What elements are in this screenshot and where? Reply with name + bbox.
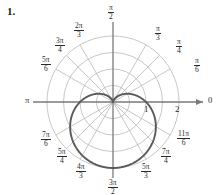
angle-label-7pi-over-6: 7π 6 bbox=[41, 131, 51, 148]
angle-label-5pi-over-6: 5π 6 bbox=[41, 56, 51, 73]
angle-label-5pi-over-3: 5π 3 bbox=[141, 163, 151, 180]
angle-label-5pi-over-3-den: 3 bbox=[141, 172, 151, 180]
angle-label-pi-over-6: π 6 bbox=[194, 57, 200, 74]
radial-tick-1: 1 bbox=[144, 104, 149, 114]
angle-label-4pi-over-3-den: 3 bbox=[76, 172, 86, 180]
angle-label-2pi-over-3: 2π 3 bbox=[74, 22, 84, 39]
angle-label-2pi-over-3-den: 3 bbox=[74, 31, 84, 39]
polar-plot-figure: 1. π 0 1 2 π 2 π 3 π 4 π 6 2π 3 bbox=[0, 0, 221, 194]
angle-label-pi-over-3: π 3 bbox=[155, 25, 161, 42]
angle-label-pi-over-6-den: 6 bbox=[194, 66, 200, 74]
angle-label-pi-over-2-den: 2 bbox=[108, 13, 114, 21]
angle-label-3pi-over-2-den: 2 bbox=[108, 188, 118, 195]
angle-label-11pi-over-6-den: 6 bbox=[177, 139, 190, 147]
angle-label-3pi-over-2: 3π 2 bbox=[108, 179, 118, 194]
angle-label-pi-over-3-den: 3 bbox=[155, 34, 161, 42]
angle-label-pi-over-2: π 2 bbox=[108, 4, 114, 21]
angle-label-5pi-over-4: 5π 4 bbox=[57, 148, 67, 165]
angle-label-pi-over-4-den: 4 bbox=[176, 47, 182, 55]
angle-label-5pi-over-4-den: 4 bbox=[57, 157, 67, 165]
angle-label-7pi-over-4-den: 4 bbox=[161, 157, 171, 165]
angle-label-4pi-over-3: 4π 3 bbox=[76, 163, 86, 180]
x-axis-arrowhead bbox=[196, 99, 203, 105]
polar-grid-svg bbox=[0, 0, 221, 194]
angle-label-7pi-over-6-den: 6 bbox=[41, 140, 51, 148]
angle-label-7pi-over-4: 7π 4 bbox=[161, 148, 171, 165]
angle-label-pi-over-4: π 4 bbox=[176, 38, 182, 55]
angle-label-pi: π bbox=[25, 95, 29, 105]
angle-label-5pi-over-6-den: 6 bbox=[41, 65, 51, 73]
angle-label-3pi-over-4: 3π 4 bbox=[55, 37, 65, 54]
problem-number: 1. bbox=[7, 5, 15, 17]
angle-label-3pi-over-4-den: 4 bbox=[55, 46, 65, 54]
angle-label-zero: 0 bbox=[208, 95, 212, 105]
angle-label-11pi-over-6: 11π 6 bbox=[177, 130, 190, 147]
radial-tick-2: 2 bbox=[175, 104, 180, 114]
